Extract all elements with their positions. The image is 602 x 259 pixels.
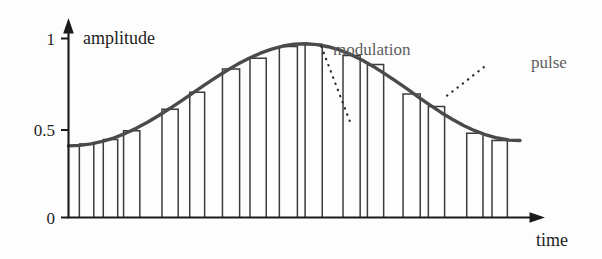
pulse-bar [222,69,239,218]
pulse-annotation-label: pulse [531,53,567,72]
pulse-bar [492,141,507,218]
pulse-bar-group [79,44,507,217]
pulse-bar [305,44,322,217]
pulse-bar [162,109,178,217]
x-axis-arrowhead [530,212,546,223]
chart-canvas: 1 0.5 0 amplitude time modulation pulse [0,0,602,259]
pulse-bar [250,58,266,217]
pulse-bar [367,64,383,217]
pulse-bar [343,56,360,218]
pulse-bar [103,139,117,217]
tick-label-group: 1 0.5 0 [34,30,55,228]
pulse-bar [467,133,483,217]
y-axis-arrowhead [63,18,74,34]
pulse-bar [79,144,93,217]
y-tick-label-1: 1 [47,30,56,49]
pulse-bar [124,131,140,218]
pulse-bar [403,94,420,218]
axes-group [61,18,545,223]
pulse-bar [279,47,297,218]
y-axis-title: amplitude [83,28,155,48]
y-tick-label-0: 0 [47,209,56,228]
modulation-annotation-label: modulation [333,40,411,59]
y-tick-label-05: 0.5 [34,121,55,140]
pulse-bar [428,107,444,218]
pulse-bar [190,92,205,217]
signal-modulation-figure: 1 0.5 0 amplitude time modulation pulse [0,0,602,259]
x-axis-title: time [536,230,568,250]
pulse-leader-line [442,67,484,99]
